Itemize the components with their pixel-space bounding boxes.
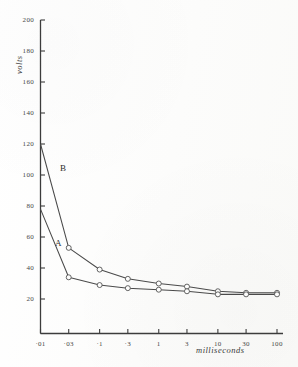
y-tick-label: 100 (12, 171, 34, 179)
data-point-A (66, 275, 71, 280)
x-tick-label: ·3 (115, 340, 141, 348)
x-axis-ticks (41, 329, 278, 334)
curve-label-A: A (55, 238, 62, 248)
y-tick-label: 60 (12, 233, 34, 241)
y-tick-label: 80 (12, 202, 34, 210)
x-tick-label: ·01 (28, 340, 54, 348)
x-tick-label: 1 (146, 340, 172, 348)
data-point-markers (66, 245, 279, 297)
x-tick-label: ·03 (56, 340, 82, 348)
data-point-B (66, 245, 71, 250)
y-tick-label: 120 (12, 140, 34, 148)
data-point-A (125, 286, 130, 291)
x-tick-label: 30 (233, 340, 259, 348)
chart-canvas (0, 0, 298, 367)
data-point-B (97, 267, 102, 272)
data-point-A (215, 292, 220, 297)
y-tick-label: 160 (12, 78, 34, 86)
x-tick-label: 3 (174, 340, 200, 348)
y-tick-label: 200 (12, 16, 34, 24)
data-curves (41, 144, 278, 294)
data-point-A (275, 292, 280, 297)
y-tick-label: 40 (12, 264, 34, 272)
axes (41, 20, 284, 334)
data-point-B (156, 281, 161, 286)
data-point-A (97, 283, 102, 288)
x-tick-label: 10 (205, 340, 231, 348)
x-tick-label: 100 (264, 340, 290, 348)
y-tick-label: 20 (12, 295, 34, 303)
x-tick-label: ·1 (87, 340, 113, 348)
data-point-A (244, 292, 249, 297)
curve-label-B: B (60, 163, 66, 173)
data-point-A (184, 289, 189, 294)
curve-B (41, 144, 278, 293)
y-tick-label: 180 (12, 47, 34, 55)
y-tick-label: 140 (12, 109, 34, 117)
data-point-B (125, 276, 130, 281)
data-point-A (156, 287, 161, 292)
